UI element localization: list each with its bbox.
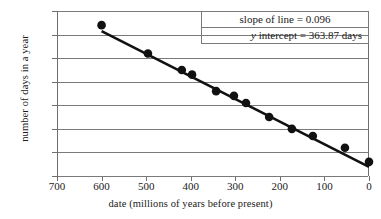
data-point <box>309 132 318 141</box>
data-point <box>288 125 297 134</box>
data-point <box>188 70 197 79</box>
chart-container: number of days in a year date (millions … <box>0 0 381 219</box>
annotation-box: slope of line = 0.096 y intercept = 363.… <box>201 11 369 44</box>
data-point <box>212 87 221 96</box>
data-point <box>97 21 106 30</box>
data-point <box>178 66 187 75</box>
data-point <box>230 92 239 101</box>
data-point <box>242 99 251 108</box>
data-point <box>341 143 350 152</box>
data-point <box>265 113 274 122</box>
data-point <box>365 158 374 167</box>
intercept-text: intercept = 363.87 days <box>256 29 362 41</box>
data-point <box>144 49 153 58</box>
slope-annotation: slope of line = 0.096 <box>202 12 368 27</box>
intercept-annotation: y intercept = 363.87 days <box>202 27 368 43</box>
